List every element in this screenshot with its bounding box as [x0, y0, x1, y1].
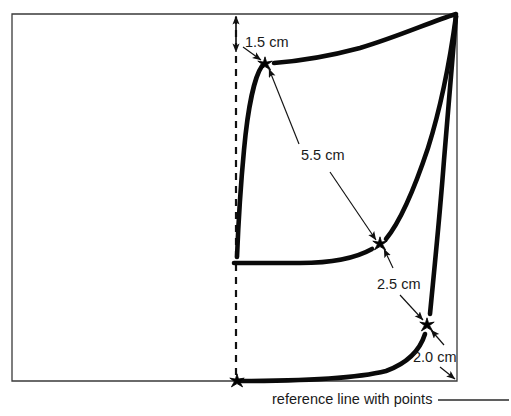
curve-outer-upper: [274, 14, 456, 63]
dimension-2-5cm: 2.5 cm: [377, 249, 423, 320]
dimension-2-5cm-label: 2.5 cm: [377, 276, 421, 292]
dimension-2-0cm-label: 2.0 cm: [413, 349, 457, 365]
dimension-5-5cm-label: 5.5 cm: [301, 147, 345, 163]
dimension-1-5cm-label: 1.5 cm: [245, 34, 289, 50]
dimension-5-5cm: 5.5 cm: [269, 69, 376, 240]
caption-text: reference line with points: [272, 391, 432, 407]
dimension-2-0cm: 2.0 cm: [413, 330, 457, 379]
curve-lower-plateau: [234, 249, 372, 263]
measurement-diagram: 1.5 cm 5.5 cm 2.5 cm 2.0 cm reference li…: [0, 0, 511, 416]
curve-right-descending-branch: [430, 16, 456, 314]
reference-line-caption: reference line with points: [272, 391, 509, 407]
frame-rectangle: [12, 14, 457, 381]
curve-left-ascending-branch: [237, 66, 262, 257]
star-point-lower: [420, 318, 434, 331]
dimension-1-5cm: 1.5 cm: [236, 16, 289, 60]
curve-bottom-tail: [238, 334, 425, 381]
diagram-canvas: 1.5 cm 5.5 cm 2.5 cm 2.0 cm reference li…: [0, 0, 511, 416]
